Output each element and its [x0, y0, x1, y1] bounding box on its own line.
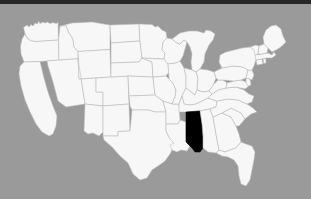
state-ks[interactable]: Kansas [128, 76, 155, 96]
us-map-svg: Washington Oregon California Nevada Idah… [0, 0, 311, 199]
state-wy[interactable]: Wyoming [78, 50, 111, 80]
map-screenshot: Washington Oregon California Nevada Idah… [0, 0, 311, 199]
state-az[interactable]: Arizona [84, 104, 103, 136]
state-wi[interactable]: Wisconsin [162, 38, 187, 64]
state-ri[interactable]: Rhode Island [263, 59, 266, 64]
state-pa[interactable]: Pennsylvania [214, 66, 248, 81]
state-nd[interactable]: North Dakota [110, 24, 140, 43]
state-mn[interactable]: Minnesota [139, 24, 167, 59]
state-wa[interactable]: Washington [24, 21, 59, 42]
state-sd[interactable]: South Dakota [111, 41, 142, 63]
us-map-container: Washington Oregon California Nevada Idah… [0, 0, 311, 199]
state-ny[interactable]: New York [219, 47, 258, 70]
